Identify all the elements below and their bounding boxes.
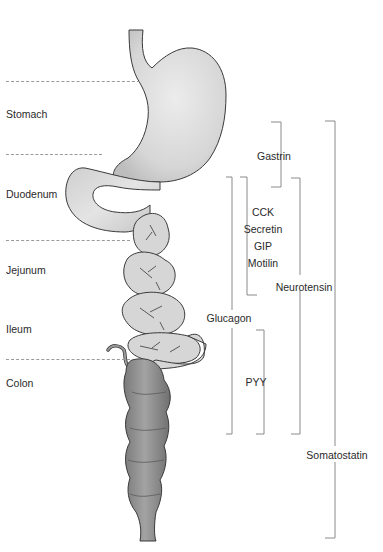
label-pyy: PYY (244, 376, 268, 388)
label-ileum: Ileum (6, 323, 32, 335)
label-somatostatin: Somatostatin (305, 449, 369, 461)
label-stomach: Stomach (6, 108, 47, 120)
bracket-cck-secretin-gip-motilin (240, 177, 257, 295)
bracket-glucagon (226, 177, 232, 434)
label-gip: GIP (242, 240, 284, 252)
divider-duodenum-jejunum (6, 240, 130, 241)
gi-tract-illustration (0, 0, 383, 552)
label-glucagon: Glucagon (205, 312, 253, 324)
label-secretin: Secretin (242, 223, 284, 235)
label-motilin: Motilin (242, 257, 284, 269)
gi-hormone-diagram: Stomach Duodenum Jejunum Ileum Colon Gas… (0, 0, 383, 552)
small-intestine-illustration (122, 213, 206, 370)
label-neurotensin: Neurotensin (272, 281, 336, 293)
divider-esophagus-stomach (6, 81, 140, 82)
colon-illustration (124, 359, 170, 541)
bracket-somatostatin (325, 121, 335, 538)
label-gastrin: Gastrin (254, 150, 294, 162)
divider-stomach-duodenum (6, 154, 102, 155)
bracket-neurotensin (291, 178, 300, 434)
label-duodenum: Duodenum (6, 188, 57, 200)
label-jejunum: Jejunum (6, 264, 46, 276)
hormone-brackets (226, 121, 335, 538)
stomach-illustration (113, 30, 226, 182)
label-cck: CCK (242, 206, 284, 218)
divider-ileum-colon (6, 359, 130, 360)
label-colon: Colon (6, 377, 33, 389)
